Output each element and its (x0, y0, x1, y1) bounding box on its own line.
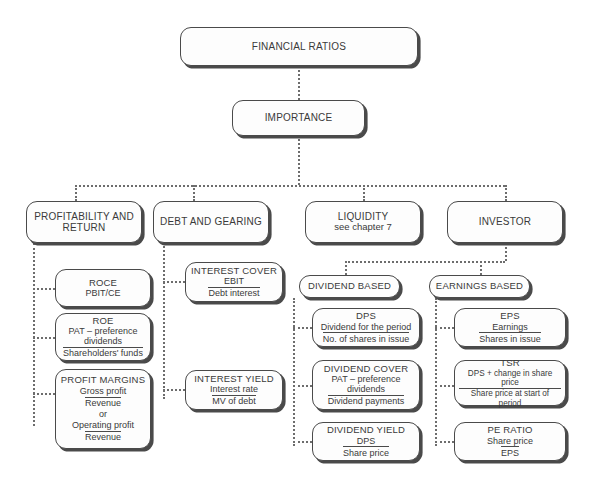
connector-root-to-importance (298, 66, 300, 100)
node-profit-margins-denominator-1: Revenue (85, 397, 121, 409)
node-profitability-and-return-label: PROFITABILITY AND RETURN (31, 211, 137, 233)
node-liquidity-note: see chapter 7 (334, 222, 392, 233)
node-dividend-cover-formula: PAT – preference dividends Dividend paym… (317, 374, 415, 406)
node-eps-numerator: Earnings (492, 322, 528, 332)
node-dividend-yield[interactable]: DIVIDEND YIELD DPS Share price (312, 422, 420, 461)
node-profit-margins-numerator-2: Operating profit (72, 420, 134, 430)
node-eps[interactable]: EPS Earnings Shares in issue (454, 308, 566, 347)
node-dividend-yield-formula: DPS Share price (343, 436, 389, 458)
node-dividend-cover-numerator: PAT – preference dividends (317, 374, 415, 394)
node-pe-ratio[interactable]: PE RATIO Share price EPS (454, 422, 566, 461)
connector-importance-down (298, 136, 300, 185)
node-dps-title: DPS (356, 311, 376, 322)
node-importance[interactable]: IMPORTANCE (232, 100, 365, 136)
node-profitability-and-return[interactable]: PROFITABILITY AND RETURN (26, 201, 142, 243)
connector-to-dividend-based (345, 261, 347, 275)
node-interest-cover[interactable]: INTEREST COVER EBIT Debt interest (185, 262, 283, 302)
connector-earnings-spine (435, 298, 437, 446)
node-eps-formula: Earnings Shares in issue (479, 322, 541, 344)
connector-to-debt (193, 185, 195, 201)
node-roe-numerator: PAT – preference dividends (60, 326, 146, 346)
connector-dividend-stub-2 (293, 385, 312, 387)
node-dps-numerator: Dividend for the period (321, 322, 412, 332)
node-debt-and-gearing-label: DEBT AND GEARING (160, 216, 262, 227)
node-pe-ratio-title: PE RATIO (487, 425, 532, 436)
connector-profitability-stub-1 (33, 288, 55, 290)
node-dps[interactable]: DPS Dividend for the period No. of share… (312, 308, 420, 347)
node-interest-cover-title: INTEREST COVER (191, 266, 277, 277)
node-tsr-title: TSR (500, 358, 520, 369)
node-profit-margins-formula-2: Operating profit Revenue (72, 420, 134, 442)
node-earnings-based[interactable]: EARNINGS BASED (429, 275, 530, 298)
node-roce-title: ROCE (89, 278, 117, 289)
node-debt-and-gearing[interactable]: DEBT AND GEARING (153, 201, 269, 243)
connector-debt-spine (163, 243, 165, 399)
node-interest-yield-numerator: Interest rate (210, 384, 258, 394)
connector-profitability-stub-3 (33, 393, 55, 395)
node-investor-label: INVESTOR (479, 216, 532, 227)
node-dps-denominator: No. of shares in issue (323, 332, 410, 344)
connector-debt-stub-1 (163, 281, 185, 283)
node-dividend-yield-denominator: Share price (343, 446, 389, 458)
node-investor[interactable]: INVESTOR (447, 201, 563, 243)
node-interest-cover-denominator: Debt interest (208, 287, 259, 299)
connector-to-investor (505, 185, 507, 201)
node-roe[interactable]: ROE PAT – preference dividends Sharehold… (55, 313, 151, 361)
node-eps-denominator: Shares in issue (479, 332, 541, 344)
node-dividend-yield-numerator: DPS (357, 436, 376, 446)
node-profit-margins-numerator-1: Gross profit (80, 386, 127, 396)
node-profit-margins-connector: or (99, 409, 107, 419)
connector-profitability-stub-2 (33, 337, 55, 339)
connector-debt-stub-2 (163, 389, 185, 391)
node-financial-ratios[interactable]: FINANCIAL RATIOS (180, 27, 418, 66)
node-financial-ratios-label: FINANCIAL RATIOS (252, 41, 346, 52)
connector-earnings-stub-3 (435, 441, 454, 443)
node-dividend-based-label: DIVIDEND BASED (308, 281, 391, 292)
node-dividend-cover[interactable]: DIVIDEND COVER PAT – preference dividend… (312, 360, 420, 410)
node-pe-ratio-numerator: Share price (487, 436, 533, 446)
connector-to-liquidity (363, 185, 365, 201)
node-dividend-based[interactable]: DIVIDEND BASED (299, 275, 400, 298)
connector-profitability-spine (33, 243, 35, 426)
node-roce-formula: PBIT/CE (85, 288, 120, 298)
node-tsr-denominator: Share price at start of period (459, 388, 561, 408)
node-tsr-numerator: DPS + change in share price (459, 369, 561, 387)
node-dividend-cover-denominator: Dividend payments (328, 395, 405, 407)
node-importance-label: IMPORTANCE (265, 112, 333, 123)
node-interest-yield[interactable]: INTEREST YIELD Interest rate MV of debt (185, 370, 283, 410)
node-profit-margins[interactable]: PROFIT MARGINS Gross profit Revenue or O… (55, 369, 151, 449)
node-profit-margins-denominator-2: Revenue (85, 431, 121, 443)
node-roe-denominator: Shareholders' funds (63, 347, 143, 359)
node-pe-ratio-denominator: EPS (501, 446, 519, 458)
connector-dividend-spine (293, 298, 295, 446)
connector-investor-down (505, 243, 507, 261)
connector-dividend-stub-3 (293, 441, 312, 443)
node-profit-margins-title: PROFIT MARGINS (61, 375, 145, 386)
node-pe-ratio-formula: Share price EPS (487, 436, 533, 458)
node-tsr[interactable]: TSR DPS + change in share price Share pr… (454, 360, 566, 406)
connector-category-bar (75, 185, 505, 187)
financial-ratios-diagram: FINANCIAL RATIOS IMPORTANCE PROFITABILIT… (0, 0, 603, 487)
node-roce[interactable]: ROCE PBIT/CE (55, 269, 151, 307)
node-dividend-cover-title: DIVIDEND COVER (324, 364, 409, 375)
connector-to-profitability (75, 185, 77, 201)
node-interest-yield-formula: Interest rate MV of debt (210, 384, 258, 406)
node-interest-cover-formula: EBIT Debt interest (208, 276, 259, 298)
node-interest-yield-title: INTEREST YIELD (194, 374, 274, 385)
node-dps-formula: Dividend for the period No. of shares in… (321, 322, 412, 344)
node-earnings-based-label: EARNINGS BASED (436, 281, 523, 292)
connector-earnings-stub-1 (435, 327, 454, 329)
node-interest-cover-numerator: EBIT (224, 276, 244, 286)
connector-to-earnings-based (480, 261, 482, 275)
node-liquidity[interactable]: LIQUIDITY see chapter 7 (305, 201, 421, 243)
node-roe-title: ROE (92, 316, 113, 327)
node-profit-margins-formula-1: Gross profit Revenue (80, 386, 127, 408)
connector-earnings-stub-2 (435, 385, 454, 387)
node-eps-title: EPS (500, 311, 520, 322)
node-dividend-yield-title: DIVIDEND YIELD (327, 425, 405, 436)
connector-dividend-stub-1 (293, 327, 312, 329)
node-roe-formula: PAT – preference dividends Shareholders'… (60, 326, 146, 358)
node-interest-yield-denominator: MV of debt (212, 395, 256, 407)
node-tsr-formula: DPS + change in share price Share price … (459, 369, 561, 408)
